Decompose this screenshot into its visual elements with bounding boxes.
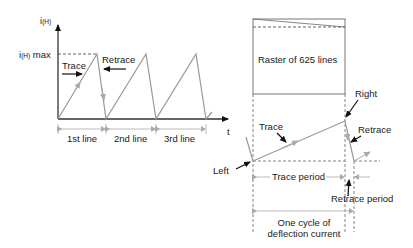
left-label-arrow	[236, 162, 250, 169]
deflection-diagram	[0, 0, 413, 248]
x-axis-label: t	[227, 127, 230, 137]
line-label-2: 2nd line	[114, 134, 147, 144]
left-label: Left	[213, 166, 229, 176]
retrace-label-arrow	[351, 136, 361, 142]
y-axis-label: i(H)	[40, 16, 51, 26]
line-label-3: 3rd line	[164, 134, 195, 144]
right-label-arrow	[346, 100, 358, 117]
trace-direction-arrow	[73, 82, 80, 94]
right-trace-label: Trace	[259, 122, 283, 132]
trace-label-arrow	[277, 133, 286, 142]
raster-label: Raster of 625 lines	[258, 55, 337, 65]
retrace-period-label: Retrace period	[331, 194, 393, 204]
cycle-label-line2: deflection current	[256, 229, 352, 239]
trace-period-label: Trace period	[272, 172, 325, 182]
left-retrace-label: Retrace	[102, 55, 135, 65]
left-trace-label: Trace	[62, 61, 86, 71]
cycle-label-line1: One cycle of	[256, 218, 352, 228]
left-graph	[58, 25, 228, 134]
y-max-label: i(H) max	[19, 50, 51, 60]
right-retrace-label: Retrace	[358, 125, 391, 135]
right-label: Right	[355, 89, 377, 99]
line-label-1: 1st line	[67, 134, 97, 144]
